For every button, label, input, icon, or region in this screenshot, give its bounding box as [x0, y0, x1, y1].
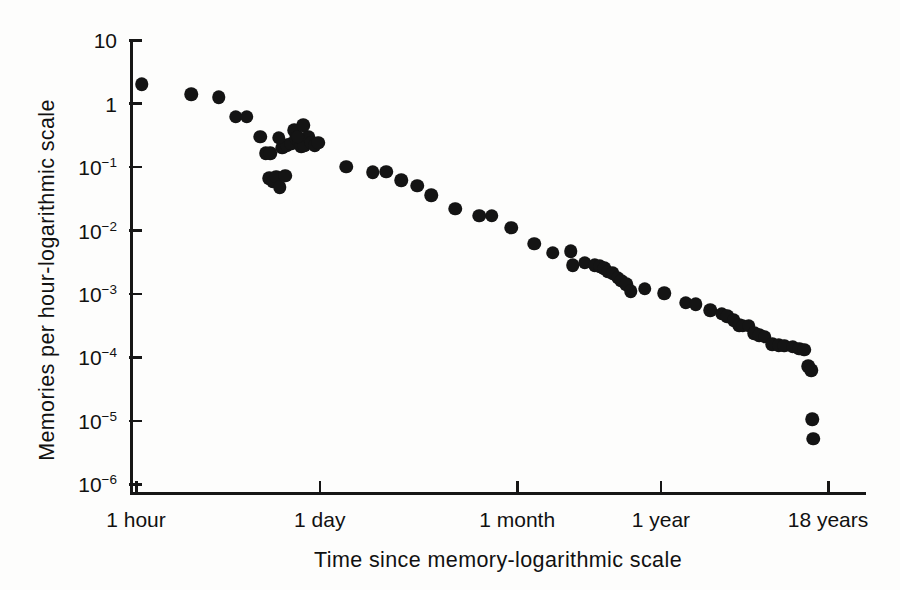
- y-tick-label-2: 10−1: [78, 157, 117, 178]
- x-tick-label-4: 18 years: [788, 508, 869, 532]
- x-tick-2: [516, 481, 519, 494]
- x-tick-4: [827, 481, 830, 494]
- x-tick-label-2: 1 month: [479, 508, 555, 532]
- data-point: [312, 136, 326, 150]
- data-point: [638, 282, 652, 296]
- data-point: [448, 202, 462, 216]
- data-point: [689, 298, 703, 312]
- x-tick-label-1: 1 day: [294, 508, 345, 532]
- data-point: [184, 87, 198, 101]
- y-tick-label-1: 1: [105, 93, 117, 114]
- data-point: [805, 412, 819, 426]
- data-point: [264, 146, 278, 160]
- y-tick-5: 10−4: [129, 356, 142, 359]
- data-point: [546, 246, 560, 260]
- chart-figure: Memories per hour-logarithmic scale 1011…: [0, 0, 900, 590]
- data-point: [366, 166, 380, 180]
- data-point: [806, 432, 820, 446]
- plot-area: 10110−110−210−310−410−510−6 1 hour1 day1…: [130, 40, 866, 494]
- data-point: [624, 284, 638, 298]
- y-tick-label-3: 10−2: [78, 220, 117, 241]
- data-point: [135, 78, 149, 92]
- y-tick-label-6: 10−5: [78, 410, 117, 431]
- data-point: [272, 131, 286, 145]
- data-point: [804, 364, 818, 378]
- data-point: [394, 173, 408, 187]
- data-point: [564, 244, 578, 258]
- data-point: [527, 237, 541, 251]
- data-point: [254, 130, 268, 144]
- y-tick-3: 10−2: [129, 229, 142, 232]
- data-point: [505, 221, 519, 235]
- x-axis-line: [130, 492, 866, 495]
- y-tick-label-4: 10−3: [78, 283, 117, 304]
- y-tick-2: 10−1: [129, 166, 142, 169]
- y-tick-4: 10−3: [129, 293, 142, 296]
- data-point: [240, 110, 254, 124]
- data-point: [380, 165, 394, 179]
- y-tick-label-5: 10−4: [78, 347, 117, 368]
- y-tick-6: 10−5: [129, 420, 142, 423]
- data-point: [424, 188, 438, 202]
- data-point: [212, 91, 226, 105]
- x-tick-3: [660, 481, 663, 494]
- y-tick-label-0: 10: [94, 30, 117, 51]
- y-tick-0: 10: [129, 39, 142, 42]
- data-point: [485, 209, 499, 223]
- x-tick-0: [135, 481, 138, 494]
- x-tick-1: [319, 481, 322, 494]
- data-point: [296, 119, 310, 133]
- x-axis-title: Time since memory-logarithmic scale: [130, 548, 866, 573]
- data-point: [278, 169, 292, 183]
- data-point: [411, 179, 425, 193]
- data-point: [798, 343, 812, 357]
- y-tick-1: 1: [129, 102, 142, 105]
- y-axis-title: Memories per hour-logarithmic scale: [25, 45, 69, 515]
- data-point: [340, 160, 354, 174]
- y-tick-label-7: 10−6: [78, 474, 117, 495]
- x-tick-label-3: 1 year: [632, 508, 690, 532]
- x-tick-label-0: 1 hour: [106, 508, 166, 532]
- y-axis-line: [130, 40, 133, 494]
- data-point: [658, 286, 672, 300]
